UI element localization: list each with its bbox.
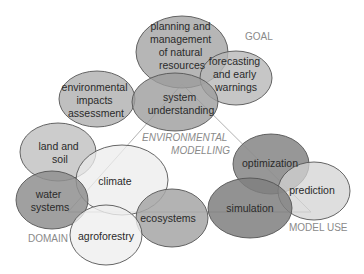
label-climate: climate <box>98 175 131 187</box>
label-prediction: prediction <box>289 184 335 196</box>
center-label: ENVIRONMENTAL MODELLING <box>142 132 230 156</box>
category-domain: DOMAIN <box>28 233 68 244</box>
category-model-use: MODEL USE <box>289 222 348 233</box>
label-ecosystems: ecosystems <box>140 212 195 224</box>
label-planning: planning and management of natural resou… <box>150 20 214 71</box>
label-agroforestry: agroforestry <box>78 230 135 242</box>
environmental-modelling-diagram: planning and management of natural resou… <box>0 0 364 274</box>
label-optimization: optimization <box>242 157 298 169</box>
label-simulation: simulation <box>226 202 273 214</box>
label-forecasting: forecasting and early warnings <box>209 55 263 93</box>
label-water-systems: water systems <box>31 188 70 213</box>
category-goal: GOAL <box>245 31 273 42</box>
